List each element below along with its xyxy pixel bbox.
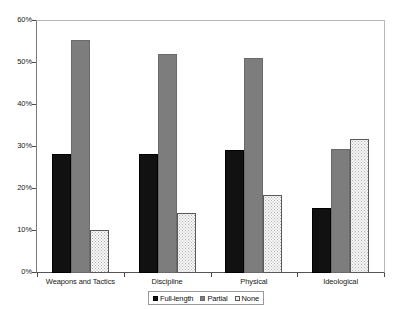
bar-partial-ideological <box>331 149 350 273</box>
bar-full-length-discipline <box>139 154 158 273</box>
bar-none-ideological <box>350 139 369 273</box>
legend-swatch-icon <box>235 296 240 301</box>
x-tick-label: Discipline <box>152 277 183 287</box>
chart-legend: Full-lengthPartialNone <box>148 291 264 305</box>
y-tick-label: 50% <box>0 58 32 66</box>
legend-swatch-icon <box>200 296 205 301</box>
bar-partial-weapons-and-tactics <box>71 40 90 273</box>
plot-area <box>37 21 384 273</box>
bar-none-physical <box>263 195 282 273</box>
y-tick-label: 10% <box>0 226 32 234</box>
y-axis: 0%10%20%30%40%50%60% <box>0 20 32 273</box>
legend-item-full-length[interactable]: Full-length <box>153 294 193 303</box>
legend-item-none[interactable]: None <box>235 294 259 303</box>
y-tick-label: 40% <box>0 100 32 108</box>
bar-partial-physical <box>244 58 263 273</box>
bar-none-discipline <box>177 213 196 273</box>
legend-swatch-icon <box>153 296 158 301</box>
y-tick-label: 60% <box>0 16 32 24</box>
bar-none-weapons-and-tactics <box>90 230 109 273</box>
x-axis-labels: Weapons and TacticsDisciplinePhysicalIde… <box>36 277 385 289</box>
x-tick-label: Physical <box>240 277 267 287</box>
bar-full-length-physical <box>225 150 244 273</box>
legend-label: Full-length <box>160 294 193 303</box>
legend-item-partial[interactable]: Partial <box>200 294 227 303</box>
y-tick-label: 0% <box>0 268 32 276</box>
legend-label: None <box>242 294 259 303</box>
bar-full-length-ideological <box>312 208 331 273</box>
y-tick-label: 30% <box>0 142 32 150</box>
bar-chart: 0%10%20%30%40%50%60% Weapons and Tactics… <box>0 0 400 309</box>
legend-label: Partial <box>207 294 227 303</box>
bar-full-length-weapons-and-tactics <box>52 154 71 273</box>
bar-partial-discipline <box>158 54 177 273</box>
x-tick-label: Weapons and Tactics <box>46 277 115 287</box>
x-tick-label: Ideological <box>323 277 358 287</box>
y-tick-label: 20% <box>0 184 32 192</box>
